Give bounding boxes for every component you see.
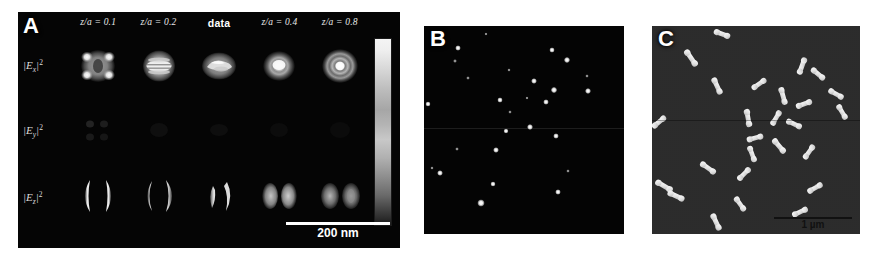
field-map-ey-col3 bbox=[251, 104, 307, 156]
field-map-ex-col1 bbox=[131, 40, 187, 92]
field-map-ex-col0 bbox=[70, 40, 126, 92]
field-map-ey-col4 bbox=[312, 104, 368, 156]
scalebar-label-a: 200 nm bbox=[286, 226, 390, 240]
panel-a: A z/a = 0.1 z/a = 0.2 data z/a = 0.4 z/a… bbox=[18, 12, 400, 248]
column-header-4: z/a = 0.8 bbox=[322, 17, 358, 27]
field-map-ez-col2-data bbox=[191, 170, 247, 222]
field-map-ey-col0 bbox=[70, 104, 126, 156]
scalebar-label-c: 1 µm bbox=[774, 219, 852, 230]
column-header-0: z/a = 0.1 bbox=[80, 17, 116, 27]
field-map-ex-col2-data bbox=[191, 40, 247, 92]
scalebar-line-a bbox=[286, 222, 390, 225]
field-map-ez-col3 bbox=[251, 170, 307, 222]
panel-b-particles bbox=[424, 26, 624, 234]
field-map-ez-col1 bbox=[131, 170, 187, 222]
column-header-3: z/a = 0.4 bbox=[261, 17, 297, 27]
field-map-ez-col0 bbox=[70, 170, 126, 222]
field-intensity-grid bbox=[60, 36, 378, 224]
panel-a-row-labels: |Ex|2 |Ey|2 |Ez|2 bbox=[20, 36, 60, 226]
column-header-2: data bbox=[208, 17, 230, 29]
intensity-colorbar bbox=[374, 38, 392, 226]
field-map-ex-col3 bbox=[251, 40, 307, 92]
panel-c: C bbox=[652, 26, 860, 234]
field-map-ez-col4 bbox=[312, 170, 368, 222]
panel-a-label: A bbox=[23, 15, 39, 37]
row-label-ez: |Ez|2 bbox=[23, 189, 42, 206]
panel-c-particles bbox=[652, 26, 860, 234]
scalebar-panel-a: 200 nm bbox=[286, 222, 390, 240]
panel-c-label: C bbox=[658, 28, 674, 50]
panel-b-scan-seam bbox=[424, 128, 624, 129]
row-label-ey: |Ey|2 bbox=[23, 123, 43, 140]
field-map-ex-col4 bbox=[312, 40, 368, 92]
panel-b: B bbox=[424, 26, 624, 234]
panel-c-scan-seam bbox=[652, 120, 860, 121]
column-header-1: z/a = 0.2 bbox=[141, 17, 177, 27]
panel-a-column-headers: z/a = 0.1 z/a = 0.2 data z/a = 0.4 z/a =… bbox=[60, 17, 378, 35]
figure-container: A z/a = 0.1 z/a = 0.2 data z/a = 0.4 z/a… bbox=[0, 0, 872, 260]
panel-b-label: B bbox=[430, 28, 446, 50]
field-map-ey-col1 bbox=[131, 104, 187, 156]
field-map-ey-col2-data bbox=[191, 104, 247, 156]
scalebar-panel-c: 1 µm bbox=[774, 217, 852, 231]
row-label-ex: |Ex|2 bbox=[23, 58, 43, 75]
